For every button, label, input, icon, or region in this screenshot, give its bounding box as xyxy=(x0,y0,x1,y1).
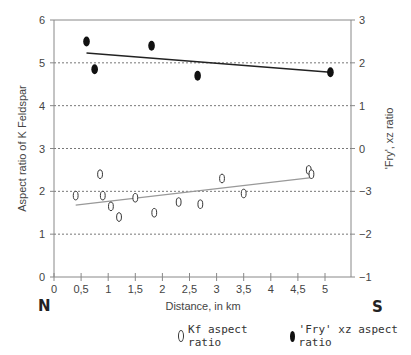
y-tick-label-right: 3 xyxy=(359,14,365,26)
y-tick-label-right: 1 xyxy=(359,100,365,112)
direction-label-south: S xyxy=(372,298,383,316)
data-point-kf xyxy=(133,193,138,202)
data-point-kf xyxy=(309,170,314,179)
x-tick-label: 5 xyxy=(322,283,328,295)
x-tick-label: 3,5 xyxy=(236,283,251,295)
data-point-kf xyxy=(98,170,103,179)
y-tick-label-left: 4 xyxy=(39,100,45,112)
data-point-fry xyxy=(91,64,98,74)
legend-item-kf: Kf aspect ratio xyxy=(178,323,268,349)
chart-canvas: 01234563210−3−2−100,511,522,533,544,55Di… xyxy=(0,0,411,320)
legend-label-kf: Kf aspect ratio xyxy=(188,323,268,349)
y-tick-label-right: 0 xyxy=(359,143,365,155)
x-tick-label: 2,5 xyxy=(182,283,197,295)
x-tick-label: 0 xyxy=(51,283,57,295)
y-tick-label-right: −1 xyxy=(359,271,372,283)
data-point-kf xyxy=(176,198,181,207)
data-point-fry xyxy=(148,41,155,51)
y-tick-label-right: −3 xyxy=(359,185,372,197)
x-tick-label: 4,5 xyxy=(290,283,305,295)
data-point-kf xyxy=(220,174,225,183)
y-tick-label-right: 2 xyxy=(359,57,365,69)
x-tick-label: 3 xyxy=(214,283,220,295)
data-point-kf xyxy=(100,191,105,200)
data-point-fry xyxy=(194,71,201,81)
data-point-kf xyxy=(241,189,246,198)
data-point-fry xyxy=(327,67,334,77)
y-tick-label-left: 2 xyxy=(39,185,45,197)
x-tick-label: 2 xyxy=(159,283,165,295)
data-point-fry xyxy=(83,36,90,46)
direction-label-north: N xyxy=(38,297,51,315)
legend: Kf aspect ratio 'Fry' xz aspect ratio xyxy=(178,323,411,349)
legend-item-fry: 'Fry' xz aspect ratio xyxy=(290,323,411,349)
y-axis-title-right: 'Fry', xz ratio xyxy=(383,108,395,170)
x-tick-label: 1 xyxy=(105,283,111,295)
y-tick-label-left: 0 xyxy=(39,271,45,283)
y-tick-label-left: 5 xyxy=(39,57,45,69)
filled-marker-icon xyxy=(290,331,295,342)
y-tick-label-left: 6 xyxy=(39,14,45,26)
x-axis-title: Distance, in km xyxy=(165,300,240,312)
y-tick-label-right: −2 xyxy=(359,228,372,240)
data-point-kf xyxy=(198,200,203,209)
x-tick-label: 1,5 xyxy=(128,283,143,295)
y-tick-label-left: 1 xyxy=(39,228,45,240)
x-tick-label: 4 xyxy=(268,283,274,295)
y-tick-label-left: 3 xyxy=(39,143,45,155)
data-point-kf xyxy=(109,202,114,211)
data-point-kf xyxy=(117,213,122,222)
x-tick-label: 0,5 xyxy=(73,283,88,295)
y-axis-title-left: Aspect ratio of K Feldspar xyxy=(16,85,28,212)
legend-label-fry: 'Fry' xz aspect ratio xyxy=(299,323,411,349)
data-point-kf xyxy=(152,208,157,217)
data-point-kf xyxy=(73,191,78,200)
open-marker-icon xyxy=(178,330,184,342)
